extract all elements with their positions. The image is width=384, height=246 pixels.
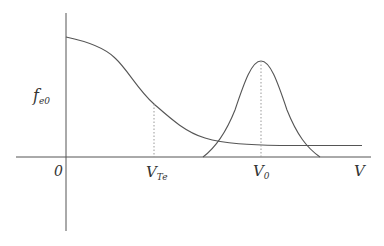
v0-label: V0: [253, 164, 270, 181]
origin-label: 0: [54, 164, 63, 178]
x-axis-label: V: [354, 164, 365, 179]
vte-label: VTe: [146, 165, 167, 182]
background-distribution-curve: [66, 37, 362, 146]
diagram: fe0 0 VTe V0 V: [0, 0, 384, 246]
diagram-canvas: [0, 0, 384, 246]
y-axis-label: fe0: [33, 88, 50, 106]
